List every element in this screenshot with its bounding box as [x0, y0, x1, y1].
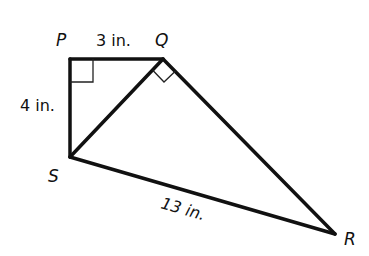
geometry-diagram: P Q S R 3 in. 4 in. 13 in.: [0, 0, 369, 256]
vertex-label-r: R: [344, 229, 356, 249]
diagram-svg: P Q S R 3 in. 4 in. 13 in.: [0, 0, 369, 256]
vertex-label-q: Q: [155, 30, 168, 50]
length-label-pq: 3 in.: [96, 31, 131, 50]
length-label-ps: 4 in.: [20, 96, 55, 115]
vertex-label-s: S: [48, 166, 59, 186]
right-angle-marker-p: [70, 59, 93, 82]
right-angle-marker-q: [153, 70, 176, 82]
length-label-sr: 13 in.: [159, 194, 208, 225]
segment-qs: [70, 59, 163, 157]
vertex-label-p: P: [56, 30, 67, 50]
